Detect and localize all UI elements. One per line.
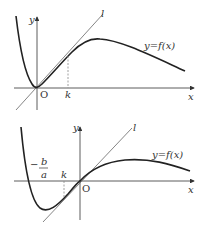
- x-label: x: [188, 91, 194, 102]
- y-label: y: [28, 14, 35, 25]
- graph-1: y l y=f(x) O k x: [14, 8, 194, 110]
- y-label: y: [72, 122, 79, 133]
- diagram: y l y=f(x) O k x y l y=f(x) O k x − b a: [0, 0, 205, 228]
- k-label: k: [61, 169, 67, 180]
- curve-label: y=f(x): [143, 40, 175, 51]
- curve-f: [16, 16, 185, 87]
- origin-label: O: [40, 89, 48, 100]
- x-label: x: [188, 184, 194, 195]
- root-numerator: b: [41, 156, 47, 167]
- tangent-line-l: [16, 14, 103, 110]
- graph-2: y l y=f(x) O k x − b a: [14, 122, 194, 222]
- root-denominator: a: [41, 169, 47, 180]
- l-label: l: [133, 122, 136, 133]
- root-sign: −: [30, 159, 38, 170]
- k-label: k: [65, 89, 71, 100]
- origin-label: O: [82, 183, 90, 194]
- l-label: l: [101, 8, 104, 19]
- curve-label: y=f(x): [151, 149, 183, 160]
